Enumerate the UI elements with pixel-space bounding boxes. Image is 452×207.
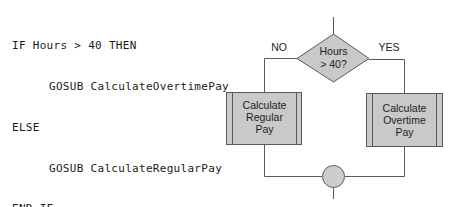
no-label: NO [271,41,287,53]
regular-pay-text-line3: Pay [255,123,274,135]
regular-pay-process: Calculate Regular Pay [227,93,302,145]
overtime-pay-text-line3: Pay [395,126,414,138]
decision-text-line2: > 40? [320,58,347,70]
yes-label: YES [378,41,399,53]
flowchart: Hours > 40? NO YES Calculate Regular Pay… [0,0,452,207]
overtime-pay-process: Calculate Overtime Pay [367,94,443,147]
decision-text-line1: Hours [319,45,347,57]
overtime-to-join-line [345,147,405,177]
yes-branch-line [369,60,405,94]
no-branch-line [265,59,298,93]
regular-pay-text-line2: Regular [246,111,283,123]
regular-to-join-line [265,145,323,177]
overtime-pay-text-line1: Calculate [383,102,427,114]
join-connector [323,166,345,188]
overtime-pay-text-line2: Overtime [383,114,426,126]
regular-pay-text-line1: Calculate [243,99,287,111]
